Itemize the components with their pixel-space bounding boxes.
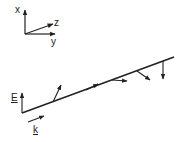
x-axis-label: x [15,4,20,15]
e-field-label: E [11,92,18,103]
diagram-canvas: x z y E k [0,0,182,142]
field-vector-3 [112,80,127,81]
k-label: k [33,124,39,135]
e-field-reference: E [11,92,22,113]
k-vector: k [28,116,44,135]
field-vector-2 [86,84,98,90]
z-axis-arrow [25,24,53,34]
y-axis-label: y [51,36,56,47]
field-vector-4 [137,71,150,80]
axes-triad: x z y [15,4,59,47]
k-arrow-icon [28,116,44,122]
propagation-line [22,57,174,113]
z-axis-label: z [54,17,59,28]
